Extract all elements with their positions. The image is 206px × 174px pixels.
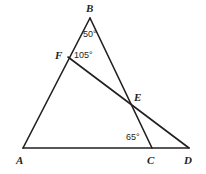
vertex-label-B: B <box>86 3 93 14</box>
segment-AB <box>23 18 90 148</box>
vertex-label-D: D <box>184 155 192 166</box>
segment-BC <box>90 18 152 148</box>
angle-label-F-105: 105° <box>74 51 93 60</box>
vertex-label-C: C <box>147 155 154 166</box>
vertex-label-E: E <box>134 92 141 103</box>
geometry-figure: A B C D E F 50° 105° 65° <box>0 0 206 174</box>
figure-segments <box>23 18 189 148</box>
angle-label-C-65: 65° <box>126 133 140 142</box>
vertex-label-F: F <box>55 50 62 61</box>
vertex-label-A: A <box>16 155 23 166</box>
angle-label-B-50: 50° <box>83 30 97 39</box>
geometry-canvas <box>0 0 206 174</box>
